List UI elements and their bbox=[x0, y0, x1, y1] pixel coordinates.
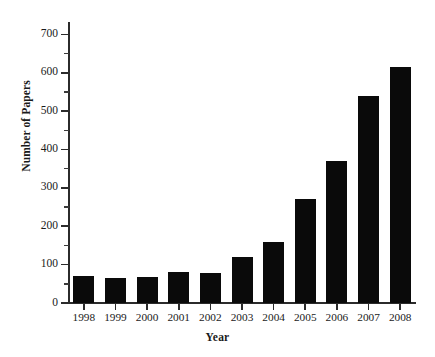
y-axis-tick-label: 600 bbox=[24, 66, 58, 78]
x-axis-tick bbox=[178, 303, 180, 310]
y-axis-tick-label-wrap: 500 bbox=[20, 105, 58, 117]
y-axis-tick-label-wrap: 0 bbox=[20, 297, 58, 309]
x-axis-tick bbox=[368, 303, 370, 310]
y-axis-tick-label: 200 bbox=[24, 220, 58, 232]
bar bbox=[326, 161, 347, 303]
y-axis-tick-label-wrap: 100 bbox=[20, 258, 58, 270]
x-axis-tick bbox=[399, 303, 401, 310]
bar-chart: Number of Papers 0100200300400500600700 … bbox=[0, 0, 435, 357]
bar bbox=[232, 257, 253, 303]
bars-group bbox=[68, 20, 416, 303]
bar bbox=[295, 199, 316, 303]
bar bbox=[390, 67, 411, 303]
y-axis-tick-label: 0 bbox=[24, 297, 58, 309]
bar bbox=[73, 276, 94, 303]
x-axis-tick-label: 2008 bbox=[380, 310, 420, 324]
y-axis-tick-label-wrap: 300 bbox=[20, 181, 58, 193]
y-axis-tick-label-wrap: 600 bbox=[20, 66, 58, 78]
x-axis-tick bbox=[146, 303, 148, 310]
y-axis-tick-label-wrap: 700 bbox=[20, 28, 58, 40]
x-axis-tick bbox=[241, 303, 243, 310]
bar bbox=[358, 96, 379, 303]
y-axis-tick-label: 100 bbox=[24, 258, 58, 270]
y-axis-tick-label: 500 bbox=[24, 105, 58, 117]
x-axis-tick bbox=[304, 303, 306, 310]
y-axis-tick-label: 300 bbox=[24, 181, 58, 193]
x-axis-tick bbox=[115, 303, 117, 310]
x-axis-tick bbox=[273, 303, 275, 310]
bar bbox=[263, 242, 284, 303]
y-axis-tick-label: 700 bbox=[24, 28, 58, 40]
bar bbox=[168, 272, 189, 303]
x-axis-title: Year bbox=[0, 331, 435, 343]
bar bbox=[200, 273, 221, 303]
bar bbox=[137, 277, 158, 303]
x-axis-tick bbox=[83, 303, 85, 310]
x-axis-tick bbox=[210, 303, 212, 310]
x-axis-tick bbox=[336, 303, 338, 310]
y-axis-tick-label: 400 bbox=[24, 143, 58, 155]
y-axis-tick-label-wrap: 400 bbox=[20, 143, 58, 155]
bar bbox=[105, 278, 126, 303]
y-axis-tick-label-wrap: 200 bbox=[20, 220, 58, 232]
